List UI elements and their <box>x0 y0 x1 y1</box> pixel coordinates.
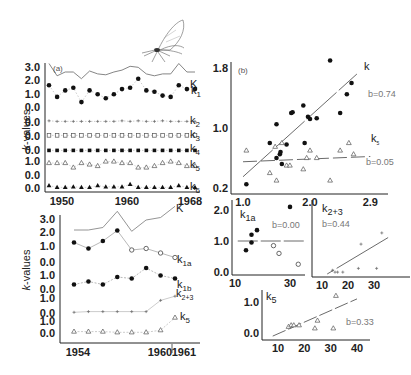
data-point <box>80 134 84 138</box>
data-point <box>336 271 339 274</box>
data-point-k <box>338 111 343 116</box>
data-point <box>334 271 337 274</box>
data-point <box>136 134 140 138</box>
data-point-k <box>244 182 249 187</box>
data-point-k5 <box>308 148 313 152</box>
data-point <box>129 120 132 123</box>
data-point <box>144 266 149 271</box>
x-tick-label: 1.0 <box>235 196 250 208</box>
x-tick-label: 1960 <box>115 195 139 207</box>
data-point-k5 <box>338 148 343 152</box>
data-point <box>177 120 180 123</box>
panel-label-k2plus3: k2+3 <box>322 202 343 217</box>
data-point <box>116 310 119 313</box>
x-tick-label: 20 <box>342 279 354 291</box>
slope-annotation-k: b=0.74 <box>368 89 396 99</box>
moth-wing-icon <box>158 20 184 50</box>
data-point <box>144 246 148 250</box>
data-point <box>79 100 84 105</box>
data-point <box>177 134 181 138</box>
data-point <box>185 134 189 138</box>
data-point <box>297 323 302 327</box>
data-point-k5 <box>274 178 279 182</box>
data-point <box>129 276 134 281</box>
regression-line <box>273 299 357 336</box>
data-point <box>103 184 108 188</box>
data-point <box>88 149 92 153</box>
data-point <box>120 149 124 153</box>
data-point <box>136 185 141 189</box>
data-point <box>101 310 104 313</box>
data-point <box>87 310 90 313</box>
series-k1: 0.0k1 <box>25 76 202 113</box>
slope-annotation: b=0.44 <box>322 219 350 229</box>
data-point <box>380 231 383 234</box>
y-tick-label: 1.0 <box>40 240 55 252</box>
x-tick-label: 30 <box>325 342 337 354</box>
data-point <box>71 165 76 169</box>
y-tick-label: 0.0 <box>244 327 259 339</box>
data-point <box>128 182 133 186</box>
data-point <box>153 149 157 153</box>
data-point <box>63 160 68 164</box>
y-tick-label: 1.0 <box>214 235 229 247</box>
x-tick-label: 1954 <box>66 346 91 358</box>
data-point <box>63 88 68 93</box>
data-point <box>87 162 92 166</box>
data-point <box>47 134 51 138</box>
data-point <box>103 96 108 101</box>
data-point <box>63 185 68 189</box>
data-point <box>161 149 165 153</box>
data-point <box>153 134 157 138</box>
series-label: k3 <box>190 128 201 143</box>
data-point <box>129 330 134 334</box>
data-point <box>176 83 181 88</box>
y-tick-label: 0.0 <box>40 256 55 268</box>
data-point-open <box>277 251 281 255</box>
x-tick-label: 1950 <box>50 195 74 207</box>
series-k1b: 1.00.0k1b <box>40 266 192 295</box>
data-point <box>96 149 100 153</box>
data-point <box>158 328 163 332</box>
data-point <box>103 159 108 163</box>
x-tick-label: 2.9 <box>363 196 378 208</box>
y-tick-label: 1.0 <box>25 155 40 167</box>
data-point <box>315 318 320 322</box>
series-label: k5 <box>180 310 191 325</box>
y-tick-label: 1.0 <box>244 296 259 308</box>
data-point <box>55 134 59 138</box>
data-point <box>185 87 190 92</box>
data-point <box>169 120 172 123</box>
data-point <box>173 315 178 319</box>
data-point-k <box>345 92 350 97</box>
y-tick-label: 0.2 <box>213 182 228 194</box>
y-tick-label: 3.0 <box>40 213 55 225</box>
x-tick-label: 20 <box>298 342 310 354</box>
chart-panel-b: 1.81.00.21.02.02.9(b)kk5b=0.74b=0.05 <box>213 58 396 208</box>
x-tick-label: 10 <box>229 277 241 289</box>
data-point <box>145 149 149 153</box>
data-point <box>72 329 77 333</box>
data-point-k5 <box>288 163 293 167</box>
y-tick-label: 1.0 <box>40 315 55 327</box>
data-point <box>71 184 76 188</box>
data-point <box>185 120 188 123</box>
data-point <box>144 165 149 169</box>
chart-panel-f: 1.00.010203040k5b=0.33 <box>244 290 374 354</box>
data-point-k <box>308 117 313 122</box>
y-tick-label: 1.0 <box>40 292 55 304</box>
data-point <box>136 165 141 169</box>
data-point <box>95 92 100 97</box>
data-point <box>87 88 92 93</box>
data-point <box>176 160 181 164</box>
data-point <box>73 311 76 314</box>
data-point-k <box>268 141 273 146</box>
series-k5: 1.00.0k5 <box>25 155 201 181</box>
y-tick-label: 3.0 <box>25 61 40 73</box>
data-point-k5 <box>346 140 351 144</box>
data-point <box>112 120 115 123</box>
data-point-k <box>301 103 306 108</box>
data-point <box>331 326 336 330</box>
series-label-k5: k5 <box>371 132 380 146</box>
series-line <box>74 206 175 231</box>
